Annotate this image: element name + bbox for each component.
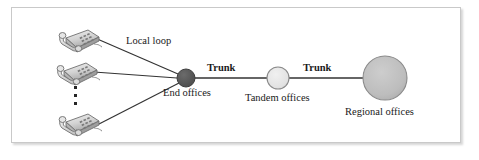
end-office-node[interactable] (177, 69, 195, 87)
ellipsis-dot (74, 94, 77, 97)
ellipsis-dot (74, 102, 77, 105)
trunk-label-1: Trunk (207, 63, 235, 74)
telephone-icon-1[interactable] (59, 30, 102, 52)
telephone-icon-3[interactable] (59, 114, 102, 136)
telephone-icon-2[interactable] (57, 63, 100, 85)
regional-offices-label: Regional offices (345, 107, 414, 118)
tandem-offices-label: Tandem offices (245, 93, 310, 104)
local-loop-links (94, 38, 179, 124)
local-loop-line-2 (94, 72, 177, 78)
regional-office-node[interactable] (363, 56, 407, 100)
vertical-ellipsis-icon (73, 86, 78, 105)
network-diagram (0, 0, 479, 160)
trunk-label-2: Trunk (303, 63, 331, 74)
end-offices-label: End offices (163, 88, 211, 99)
tandem-office-node[interactable] (267, 67, 289, 89)
telephone-group (57, 30, 102, 136)
local-loop-label: Local loop (126, 36, 171, 47)
ellipsis-dot (74, 86, 77, 89)
